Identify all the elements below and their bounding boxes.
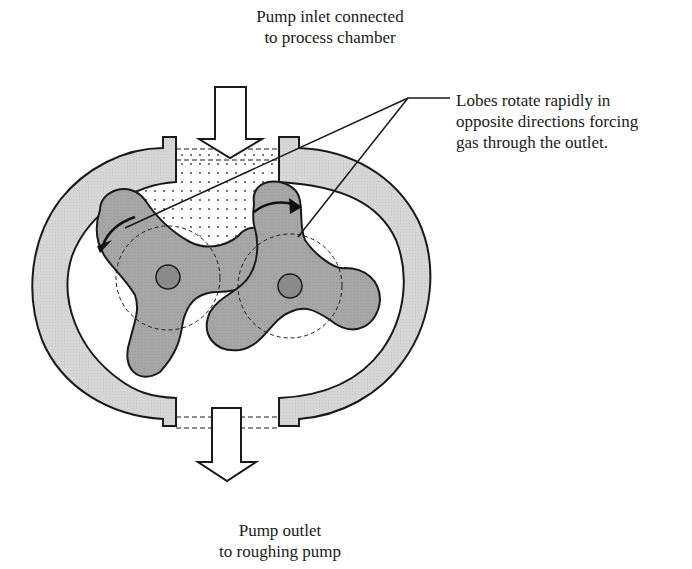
right-shaft bbox=[278, 274, 302, 298]
outlet-arrow bbox=[198, 408, 256, 481]
roots-pump-diagram bbox=[0, 0, 692, 569]
left-shaft bbox=[156, 265, 180, 289]
inlet-arrow bbox=[199, 87, 262, 158]
